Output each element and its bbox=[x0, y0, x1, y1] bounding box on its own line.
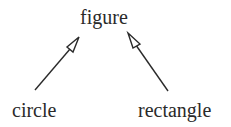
node-circle: circle bbox=[12, 100, 56, 120]
hollow-triangle-arrowhead-icon bbox=[128, 33, 140, 48]
inheritance-diagram: figure circle rectangle bbox=[0, 0, 231, 127]
node-figure: figure bbox=[80, 7, 128, 27]
node-rectangle: rectangle bbox=[138, 100, 211, 120]
edge-rectangle-to-figure bbox=[128, 33, 168, 91]
edge-circle-to-figure bbox=[35, 37, 79, 90]
